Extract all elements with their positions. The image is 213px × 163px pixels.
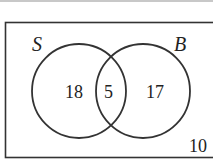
outside-count: 10: [189, 136, 207, 156]
b-only-count: 17: [146, 82, 164, 102]
s-only-count: 18: [65, 82, 83, 102]
intersection-count: 5: [104, 82, 113, 102]
set-s-label: S: [32, 33, 42, 55]
set-b-label: B: [174, 33, 186, 55]
venn-diagram: S B 18 5 17 10: [0, 0, 213, 163]
